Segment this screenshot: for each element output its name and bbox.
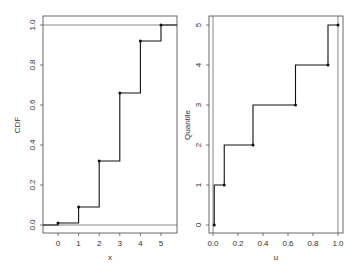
quantile-x-axis: 0.00.20.40.60.81.0: [207, 233, 344, 248]
quantile-plot-frame: [209, 16, 343, 233]
cdf-x-axis: 012345: [56, 233, 164, 248]
quantile-point: [213, 224, 216, 227]
cdf-point: [139, 40, 142, 43]
cdf-y-tick-label: 0.4: [28, 139, 37, 151]
cdf-x-tick-label: 3: [118, 239, 123, 248]
quantile-x-tick-label: 0.8: [307, 239, 319, 248]
cdf-x-tick-label: 5: [159, 239, 164, 248]
quantile-x-tick-label: 1.0: [332, 239, 344, 248]
quantile-x-tick-label: 0.0: [207, 239, 219, 248]
quantile-y-tick-label: 2: [194, 142, 203, 147]
quantile-point: [327, 64, 330, 67]
cdf-y-tick-label: 0.2: [28, 179, 37, 191]
cdf-plot-frame: [43, 16, 177, 233]
quantile-x-tick-label: 0.2: [232, 239, 244, 248]
cdf-y-tick-label: 0.6: [28, 99, 37, 111]
quantile-y-tick-label: 1: [194, 182, 203, 187]
cdf-y-axis-label: CDF: [13, 117, 22, 134]
cdf-x-tick-label: 1: [76, 239, 81, 248]
quantile-y-tick-label: 0: [194, 222, 203, 227]
cdf-point: [160, 24, 163, 27]
cdf-x-tick-label: 2: [97, 239, 102, 248]
quantile-x-axis-label: u: [274, 253, 278, 262]
quantile-reference-lines: [213, 16, 338, 233]
cdf-panel: 012345 0.00.20.40.60.81.0 x CDF: [13, 16, 177, 262]
cdf-reference-lines: [43, 25, 177, 225]
cdf-y-tick-label: 0.8: [28, 59, 37, 71]
quantile-step-line: [213, 25, 338, 225]
cdf-point: [118, 92, 121, 95]
quantile-y-axis-label: Quantile: [183, 110, 192, 140]
figure: 012345 0.00.20.40.60.81.0 x CDF 0.00.20.…: [0, 0, 360, 274]
quantile-panel: 0.00.20.40.60.81.0 012345 u Quantile: [183, 16, 344, 262]
cdf-point: [77, 206, 80, 209]
cdf-x-tick-label: 0: [56, 239, 61, 248]
cdf-y-axis: 0.00.20.40.60.81.0: [28, 19, 43, 231]
cdf-step-line: [43, 25, 177, 225]
quantile-y-axis: 012345: [194, 22, 209, 227]
quantile-point: [294, 104, 297, 107]
quantile-y-tick-label: 3: [194, 102, 203, 107]
cdf-y-tick-label: 1.0: [28, 19, 37, 31]
cdf-x-tick-label: 4: [138, 239, 143, 248]
quantile-x-tick-label: 0.6: [282, 239, 294, 248]
chart-canvas: 012345 0.00.20.40.60.81.0 x CDF 0.00.20.…: [0, 0, 360, 274]
cdf-step-path: [43, 25, 177, 225]
quantile-points: [213, 24, 340, 227]
cdf-y-tick-label: 0.0: [28, 219, 37, 231]
quantile-point: [223, 184, 226, 187]
quantile-y-tick-label: 5: [194, 22, 203, 27]
cdf-point: [98, 160, 101, 163]
quantile-step-path: [213, 25, 338, 225]
cdf-x-axis-label: x: [108, 253, 112, 262]
cdf-points: [57, 24, 163, 225]
quantile-x-tick-label: 0.4: [257, 239, 269, 248]
quantile-y-tick-label: 4: [194, 62, 203, 67]
quantile-point: [337, 24, 340, 27]
quantile-point: [252, 144, 255, 147]
cdf-point: [57, 222, 60, 225]
